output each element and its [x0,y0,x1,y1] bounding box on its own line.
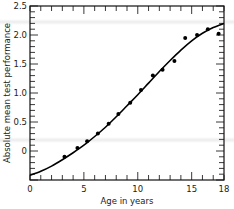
data-point [75,146,79,150]
y-tick-label: 1.0 [13,88,27,98]
data-point [85,139,89,143]
x-axis-label: Age in years [101,196,155,206]
x-tick-label: 5 [81,184,86,194]
y-tick-label: 0 [22,146,27,156]
data-point [161,68,165,72]
x-tick-label: 18 [219,184,230,194]
data-point [107,122,111,126]
data-point [62,155,66,159]
data-point [183,36,187,40]
data-point [96,132,100,136]
y-tick-label: 2.0 [13,30,27,40]
x-tick-label: 10 [132,184,143,194]
chart: 00.51.01.52.02.5 05101518 Age in years A… [0,0,234,209]
y-tick-label: 2.5 [13,1,27,11]
data-point [206,27,210,31]
data-point [217,32,221,36]
axis-ticks [30,6,224,180]
data-points [62,27,220,159]
data-point [195,33,199,37]
y-tick-labels: 00.51.01.52.02.5 [13,1,27,156]
x-tick-label: 15 [186,184,197,194]
x-tick-labels: 05101518 [27,184,229,194]
data-point [172,59,176,63]
x-tick-label: 0 [27,184,32,194]
y-axis-label: Absolute mean test performance [2,23,12,163]
y-tick-label: 1.5 [13,59,27,69]
data-point [116,112,120,116]
data-point [128,101,132,105]
data-point [151,74,155,78]
fitted-curve [30,23,224,175]
plot-frame [30,6,224,180]
y-tick-label: 0.5 [13,117,27,127]
data-point [139,88,143,92]
